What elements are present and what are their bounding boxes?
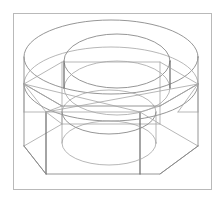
wireframe-drawing bbox=[0, 0, 222, 202]
corner-taper-front-right bbox=[140, 112, 160, 124]
bore-seat-front-arc bbox=[62, 112, 156, 134]
chamfer-left-back bbox=[24, 84, 62, 106]
corner-link-back-left bbox=[46, 106, 62, 112]
drawing-frame bbox=[14, 14, 212, 190]
top-hexagon-front-edges bbox=[24, 84, 198, 106]
cylinder-bottom-back-arc bbox=[24, 47, 198, 84]
bottom-hexagon-back-edges bbox=[24, 124, 198, 146]
bottom-hexagon-front-edges bbox=[24, 146, 198, 174]
top-hexagon-back-edges bbox=[24, 62, 198, 84]
corner-link-back-right bbox=[140, 106, 160, 112]
drawing-canvas bbox=[0, 0, 222, 202]
hex-prism-top-face bbox=[24, 62, 198, 112]
hex-prism-bottom-face bbox=[24, 124, 198, 174]
cylinder-top-ellipse bbox=[24, 20, 198, 94]
bore-seat-back-arc bbox=[62, 90, 156, 112]
bore-mid-back-arc bbox=[64, 61, 170, 88]
hex-prism-vertical-edges bbox=[24, 62, 198, 174]
bottom-right-bevel bbox=[160, 146, 198, 174]
chamfer-right-front bbox=[178, 84, 198, 112]
bottom-left-bevel bbox=[24, 146, 46, 174]
